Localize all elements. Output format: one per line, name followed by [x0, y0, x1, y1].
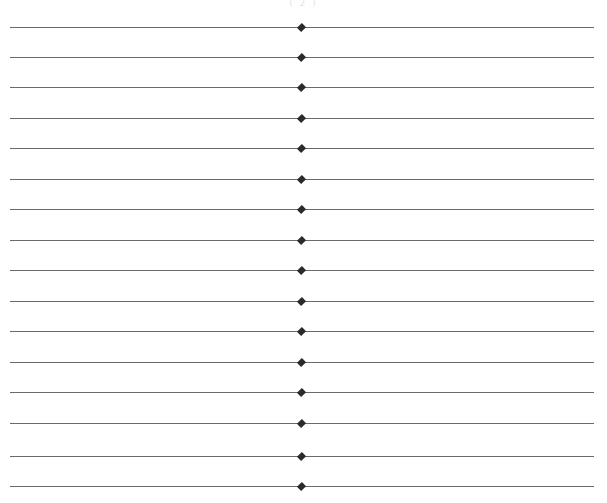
diamond-center-mark-icon [297, 23, 306, 32]
diamond-center-mark-icon [297, 114, 306, 123]
diamond-center-mark-icon [297, 358, 306, 367]
diamond-center-mark-icon [297, 83, 306, 92]
diamond-center-mark-icon [297, 266, 306, 275]
diamond-center-mark-icon [297, 205, 306, 214]
diamond-center-mark-icon [297, 327, 306, 336]
diamond-center-mark-icon [297, 297, 306, 306]
diamond-center-mark-icon [297, 388, 306, 397]
page-number-marker: ( 2 ) [0, 0, 607, 8]
diamond-center-mark-icon [297, 482, 306, 491]
diamond-center-mark-icon [297, 175, 306, 184]
diamond-center-mark-icon [297, 452, 306, 461]
diamond-center-mark-icon [297, 53, 306, 62]
diamond-center-mark-icon [297, 236, 306, 245]
diamond-center-mark-icon [297, 419, 306, 428]
diamond-center-mark-icon [297, 144, 306, 153]
